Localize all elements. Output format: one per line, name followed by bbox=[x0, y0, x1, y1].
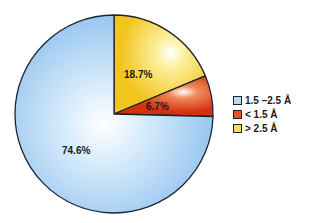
slice-label-yellow: 18.7% bbox=[124, 69, 152, 80]
pie bbox=[15, 15, 213, 213]
legend-label: > 2.5 Å bbox=[245, 123, 278, 134]
legend-swatch-red bbox=[233, 110, 242, 119]
legend-label: < 1.5 Å bbox=[245, 109, 278, 120]
legend-label: 1.5 –2.5 Å bbox=[245, 95, 291, 106]
legend-item-1-5-2-5: 1.5 –2.5 Å bbox=[233, 94, 291, 107]
legend-item-gt-2-5: > 2.5 Å bbox=[233, 122, 291, 135]
slice-label-blue: 74.6% bbox=[62, 145, 90, 156]
legend-swatch-blue bbox=[233, 96, 242, 105]
legend: 1.5 –2.5 Å < 1.5 Å > 2.5 Å bbox=[233, 94, 291, 136]
legend-item-lt-1-5: < 1.5 Å bbox=[233, 108, 291, 121]
legend-swatch-yellow bbox=[233, 124, 242, 133]
slice-label-red: 6.7% bbox=[146, 101, 169, 112]
